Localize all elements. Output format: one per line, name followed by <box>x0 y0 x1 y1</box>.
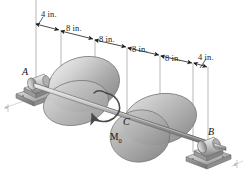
axis-label-x: x <box>5 104 8 110</box>
dimension-label-4: 8 in. <box>132 44 148 54</box>
moment-subscript: 0 <box>118 137 121 144</box>
axis-label-z: z <box>234 161 236 167</box>
dimension-label-3: 8 in. <box>99 34 115 44</box>
moment-label-m0: M0 <box>110 132 122 144</box>
dimension-chain <box>36 24 207 67</box>
dimension-label-6: 4 in. <box>198 52 214 62</box>
point-label-a: A <box>22 66 28 77</box>
figure-canvas: 4 in. 8 in. 8 in. 8 in. 8 in. 4 in. A B … <box>0 0 245 178</box>
dimension-label-5: 8 in. <box>165 53 181 63</box>
shaft-assembly-drawing <box>0 0 245 178</box>
point-label-c: C <box>123 116 130 127</box>
dimension-label-2: 8 in. <box>66 23 82 33</box>
dimension-label-1: 4 in. <box>41 9 57 19</box>
point-label-b: B <box>208 126 214 137</box>
